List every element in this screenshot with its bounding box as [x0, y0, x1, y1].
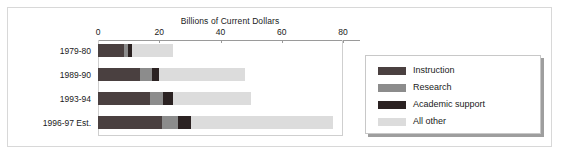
legend-swatch: [378, 118, 406, 126]
bar-segment: [98, 68, 140, 81]
bars-layer: 1979-801989-901993-941996-97 Est.: [14, 40, 344, 136]
legend-label: Academic support: [413, 100, 485, 109]
legend-label: All other: [413, 117, 446, 126]
bar-row: 1993-94: [14, 88, 344, 112]
legend-swatch: [378, 101, 406, 109]
bar-row: 1989-90: [14, 64, 344, 88]
stacked-bar: [98, 44, 173, 57]
bar-segment: [150, 92, 163, 105]
bar-segment: [132, 44, 173, 57]
x-tick-label: 60: [277, 27, 286, 37]
chart-legend: InstructionResearchAcademic supportAll o…: [365, 55, 541, 134]
bar-segment: [159, 68, 245, 81]
x-tick-label: 40: [216, 27, 225, 37]
category-label: 1993-94: [60, 94, 91, 104]
legend-item-list: InstructionResearchAcademic supportAll o…: [366, 56, 540, 133]
plot-area: Billions of Current Dollars 020406080 19…: [14, 14, 344, 140]
legend-item[interactable]: Instruction: [378, 62, 540, 79]
chart-title: Billions of Current Dollars: [110, 16, 350, 26]
bar-segment: [163, 92, 173, 105]
legend-swatch: [378, 67, 406, 75]
bar-row: 1979-80: [14, 40, 344, 64]
stacked-bar: [98, 116, 333, 129]
bar-segment: [162, 116, 177, 129]
legend-item[interactable]: Academic support: [378, 96, 540, 113]
bar-segment: [152, 68, 160, 81]
bar-segment: [191, 116, 332, 129]
stacked-bar: [98, 92, 251, 105]
x-tick-label: 80: [338, 27, 347, 37]
legend-label: Research: [413, 83, 452, 92]
legend-item[interactable]: Research: [378, 79, 540, 96]
legend-label: Instruction: [413, 66, 455, 75]
bar-segment: [140, 68, 151, 81]
x-axis-tick-labels: 020406080: [14, 27, 344, 39]
legend-swatch: [378, 84, 406, 92]
stacked-bar: [98, 68, 245, 81]
category-label: 1989-90: [60, 70, 91, 80]
bar-segment: [98, 116, 162, 129]
category-label: 1996-97 Est.: [43, 118, 91, 128]
chart-figure: Billions of Current Dollars 020406080 19…: [0, 0, 561, 156]
bar-row: 1996-97 Est.: [14, 112, 344, 136]
x-tick-label: 0: [96, 27, 101, 37]
x-tick-label: 20: [155, 27, 164, 37]
legend-item[interactable]: All other: [378, 113, 540, 130]
bar-segment: [98, 44, 124, 57]
bar-segment: [98, 92, 150, 105]
category-label: 1979-80: [60, 46, 91, 56]
bar-segment: [178, 116, 192, 129]
bar-segment: [173, 92, 251, 105]
